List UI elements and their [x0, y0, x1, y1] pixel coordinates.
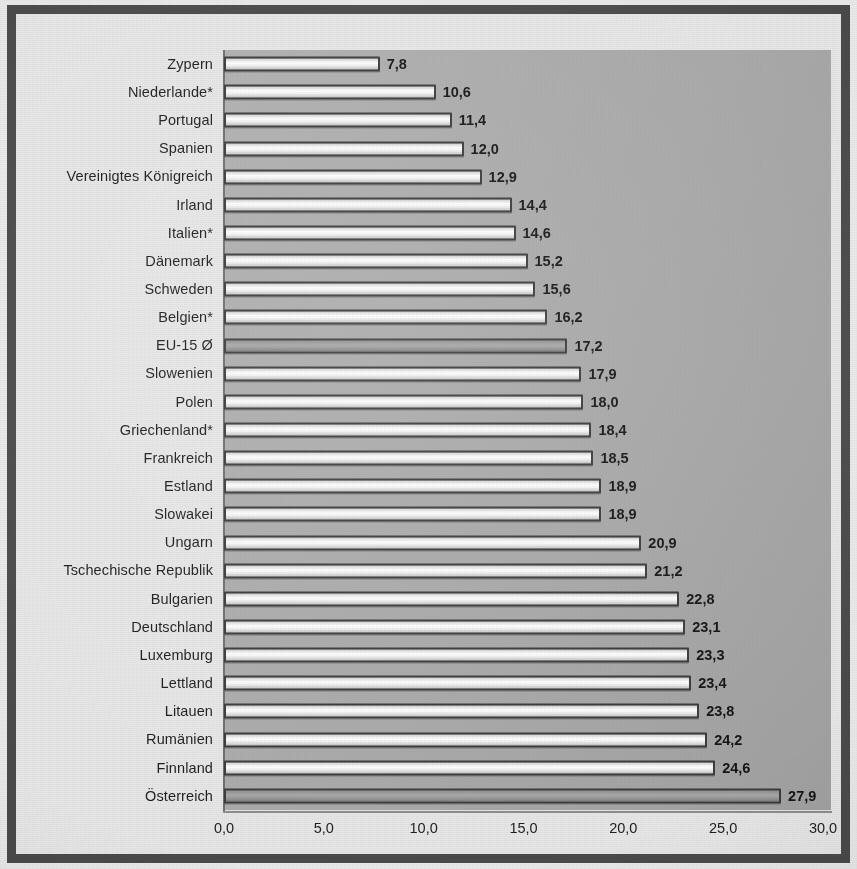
bar-row: Belgien*16,2: [32, 303, 841, 331]
bar: [224, 366, 581, 381]
bar: [224, 479, 601, 494]
x-tick-label: 20,0: [609, 821, 637, 836]
bar-value-label: 15,2: [535, 254, 563, 269]
bar-value-label: 20,9: [648, 535, 676, 550]
bar-value-label: 12,9: [489, 169, 517, 184]
bar: [224, 169, 482, 184]
bar: [224, 85, 436, 100]
bar-value-label: 23,3: [696, 648, 724, 663]
category-label: Italien*: [32, 226, 213, 241]
bar-row: Slowenien17,9: [32, 360, 841, 388]
category-label: Irland: [32, 198, 213, 213]
bar-value-label: 7,8: [387, 57, 407, 72]
bar-container: [224, 563, 647, 578]
bar-container: [224, 366, 581, 381]
bar-value-label: 10,6: [443, 85, 471, 100]
category-label: Zypern: [32, 57, 213, 72]
category-label: Slowakei: [32, 507, 213, 522]
bar-container: [224, 282, 535, 297]
bar-value-label: 14,6: [523, 226, 551, 241]
bar: [224, 563, 647, 578]
bar-container: [224, 620, 685, 635]
scanned-chart-page: Zypern7,8Niederlande*10,6Portugal11,4Spa…: [0, 0, 857, 869]
bar: [224, 394, 583, 409]
category-label: Finnland: [32, 761, 213, 776]
bar: [224, 760, 715, 775]
bar-value-label: 18,9: [608, 507, 636, 522]
category-label: Griechenland*: [32, 423, 213, 438]
x-tick-label: 25,0: [709, 821, 737, 836]
bar-highlighted: [224, 338, 567, 353]
category-label: Dänemark: [32, 254, 213, 269]
bar-container: [224, 451, 593, 466]
bar-row: Rumänien24,2: [32, 726, 841, 754]
bar-value-label: 17,9: [588, 366, 616, 381]
bar: [224, 620, 685, 635]
bar: [224, 57, 380, 72]
x-axis-tick-labels: 0,05,010,015,020,025,030,0: [32, 821, 841, 851]
bar-row: Irland14,4: [32, 191, 841, 219]
bar-value-label: 23,1: [692, 620, 720, 635]
bar-row: Tschechische Republik21,2: [32, 557, 841, 585]
category-label: Tschechische Republik: [32, 563, 213, 578]
bar-row: Griechenland*18,4: [32, 416, 841, 444]
category-label: Luxemburg: [32, 648, 213, 663]
bar-row: Niederlande*10,6: [32, 78, 841, 106]
category-label: Niederlande*: [32, 85, 213, 100]
category-label: Frankreich: [32, 451, 213, 466]
bar-row: Zypern7,8: [32, 50, 841, 78]
bar: [224, 422, 591, 437]
category-label: Schweden: [32, 282, 213, 297]
bar-row: Deutschland23,1: [32, 613, 841, 641]
bar-container: [224, 85, 436, 100]
bar-row: Spanien12,0: [32, 134, 841, 162]
bar-value-label: 15,6: [542, 282, 570, 297]
bar-container: [224, 732, 707, 747]
figure-frame: Zypern7,8Niederlande*10,6Portugal11,4Spa…: [7, 5, 850, 863]
bar: [224, 310, 547, 325]
bar-value-label: 16,2: [554, 310, 582, 325]
bar-value-label: 23,8: [706, 704, 734, 719]
bar-value-label: 18,5: [600, 451, 628, 466]
x-tick-label: 0,0: [214, 821, 234, 836]
bar-row: Polen18,0: [32, 388, 841, 416]
bar-value-label: 22,8: [686, 592, 714, 607]
bar-row: Luxemburg23,3: [32, 641, 841, 669]
bar-container: [224, 113, 452, 128]
bar-container: [224, 197, 512, 212]
category-label: Rumänien: [32, 732, 213, 747]
x-tick-label: 10,0: [410, 821, 438, 836]
bar-container: [224, 535, 641, 550]
bar-container: [224, 141, 464, 156]
bar-chart: Zypern7,8Niederlande*10,6Portugal11,4Spa…: [32, 28, 841, 859]
bar-row: Bulgarien22,8: [32, 585, 841, 613]
bar: [224, 507, 601, 522]
bar-container: [224, 676, 691, 691]
bar-row: Dänemark15,2: [32, 247, 841, 275]
bar-container: [224, 422, 591, 437]
category-label: Litauen: [32, 704, 213, 719]
bar-row: Finnland24,6: [32, 754, 841, 782]
bar: [224, 704, 699, 719]
bar-row: Italien*14,6: [32, 219, 841, 247]
bar: [224, 254, 528, 269]
category-label: Spanien: [32, 141, 213, 156]
bar: [224, 591, 679, 606]
bar: [224, 282, 535, 297]
bar-row: Estland18,9: [32, 472, 841, 500]
bar-container: [224, 310, 547, 325]
bar: [224, 451, 593, 466]
bar-row: Schweden15,6: [32, 275, 841, 303]
category-label: Slowenien: [32, 366, 213, 381]
bar-container: [224, 225, 516, 240]
bar-row: Slowakei18,9: [32, 500, 841, 528]
category-label: Estland: [32, 479, 213, 494]
bar: [224, 197, 512, 212]
bar-container: [224, 479, 601, 494]
bar-row: Lettland23,4: [32, 669, 841, 697]
bar-row: Litauen23,8: [32, 697, 841, 725]
category-label: Portugal: [32, 113, 213, 128]
bar: [224, 225, 516, 240]
category-label: Polen: [32, 395, 213, 410]
bar-value-label: 21,2: [654, 563, 682, 578]
